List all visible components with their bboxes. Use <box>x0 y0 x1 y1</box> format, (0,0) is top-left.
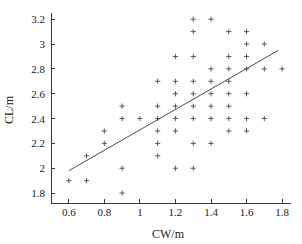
data-point-marker <box>84 178 89 183</box>
data-point-marker <box>208 66 213 71</box>
data-point-marker <box>191 29 196 34</box>
data-point-marker <box>262 66 267 71</box>
data-point-marker <box>226 66 231 71</box>
data-point-marker <box>226 128 231 133</box>
data-point-marker <box>191 104 196 109</box>
data-point-marker <box>262 41 267 46</box>
data-point-marker <box>226 29 231 34</box>
data-point-marker <box>244 128 249 133</box>
x-axis-title: CW/m <box>152 227 185 241</box>
x-tick-label: 1.6 <box>240 206 254 218</box>
data-point-marker <box>208 79 213 84</box>
y-tick-label: 2.6 <box>31 88 45 100</box>
y-tick-label: 1.8 <box>31 187 45 199</box>
data-point-marker <box>226 91 231 96</box>
data-point-marker <box>120 166 125 171</box>
data-point-marker <box>155 79 160 84</box>
regression-line <box>69 50 279 170</box>
data-point-markers <box>66 17 285 196</box>
data-point-marker <box>155 128 160 133</box>
data-point-marker <box>208 17 213 22</box>
tick-marks <box>51 19 282 203</box>
y-tick-labels: 1.822.22.42.62.833.2 <box>31 13 45 199</box>
data-point-marker <box>208 116 213 121</box>
data-point-marker <box>244 91 249 96</box>
data-point-marker <box>84 153 89 158</box>
data-point-marker <box>155 104 160 109</box>
data-point-marker <box>244 41 249 46</box>
data-point-marker <box>120 104 125 109</box>
y-tick-label: 2.8 <box>31 63 45 75</box>
data-point-marker <box>208 91 213 96</box>
data-point-marker <box>102 141 107 146</box>
y-tick-label: 3.2 <box>31 13 45 25</box>
data-point-marker <box>208 141 213 146</box>
data-point-marker <box>191 54 196 59</box>
data-point-marker <box>191 17 196 22</box>
data-point-marker <box>155 153 160 158</box>
data-point-marker <box>155 141 160 146</box>
scatter-plot-figure: 0.60.811.21.41.61.8 1.822.22.42.62.833.2… <box>0 0 302 244</box>
data-point-marker <box>66 178 71 183</box>
x-tick-label: 1.4 <box>204 206 218 218</box>
data-point-marker <box>120 116 125 121</box>
data-point-marker <box>173 79 178 84</box>
data-point-marker <box>173 54 178 59</box>
data-point-marker <box>173 166 178 171</box>
data-point-marker <box>244 116 249 121</box>
data-point-marker <box>191 141 196 146</box>
data-point-marker <box>244 54 249 59</box>
data-point-marker <box>280 66 285 71</box>
x-tick-label: 1.8 <box>275 206 289 218</box>
data-point-marker <box>191 79 196 84</box>
data-point-marker <box>173 91 178 96</box>
data-point-marker <box>262 116 267 121</box>
regression-line-segment <box>69 50 279 170</box>
x-tick-labels: 0.60.811.21.41.61.8 <box>62 206 290 218</box>
data-point-marker <box>191 91 196 96</box>
y-tick-label: 2 <box>40 162 46 174</box>
data-point-marker <box>102 128 107 133</box>
axes <box>51 13 291 203</box>
plot-canvas: 0.60.811.21.41.61.8 1.822.22.42.62.833.2… <box>0 0 302 244</box>
x-tick-label: 1 <box>137 206 143 218</box>
data-point-marker <box>244 29 249 34</box>
y-tick-label: 2.2 <box>31 137 45 149</box>
y-tick-label: 3 <box>40 38 46 50</box>
data-point-marker <box>226 104 231 109</box>
x-tick-label: 0.6 <box>62 206 76 218</box>
data-point-marker <box>191 166 196 171</box>
data-point-marker <box>173 128 178 133</box>
data-point-marker <box>208 104 213 109</box>
x-tick-label: 1.2 <box>169 206 183 218</box>
x-tick-label: 0.8 <box>97 206 111 218</box>
y-tick-label: 2.4 <box>31 113 45 125</box>
data-point-marker <box>120 190 125 195</box>
data-point-marker <box>137 116 142 121</box>
data-point-marker <box>226 116 231 121</box>
y-axis-title: CL/m <box>2 95 16 124</box>
data-point-marker <box>173 116 178 121</box>
data-point-marker <box>226 54 231 59</box>
data-point-marker <box>191 116 196 121</box>
